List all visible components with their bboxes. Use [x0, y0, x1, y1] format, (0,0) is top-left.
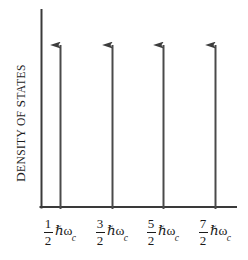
fraction-three-halves: 3 2 — [96, 217, 105, 247]
omega-symbol: ω — [116, 223, 125, 238]
hbar-symbol: ℏ — [107, 223, 116, 238]
fraction-one-half: 1 2 — [44, 217, 53, 247]
hbar-symbol: ℏ — [55, 223, 64, 238]
hbar-symbol: ℏ — [210, 223, 219, 238]
x-tick-label-group: 1 2 ℏωc 3 2 ℏωc 5 2 ℏωc 7 — [0, 210, 248, 258]
y-axis-title-segment-1: ENSITY OF — [15, 107, 27, 171]
unit-hbar-omega-c: ℏωc — [210, 222, 231, 241]
y-axis-title-segment-2: TATES — [15, 64, 27, 99]
subscript-c: c — [124, 233, 128, 243]
density-of-states-figure: DENSITY OF STATES 1 2 ℏωc 3 2 ℏωc 5 2 — [0, 0, 248, 260]
omega-symbol: ω — [219, 223, 228, 238]
x-tick-label-1: 1 2 ℏωc — [31, 210, 89, 254]
fraction-numerator: 7 — [199, 217, 208, 231]
fraction-numerator: 3 — [96, 217, 105, 231]
subscript-c: c — [227, 233, 231, 243]
omega-symbol: ω — [167, 223, 176, 238]
unit-hbar-omega-c: ℏωc — [158, 222, 179, 241]
unit-hbar-omega-c: ℏωc — [55, 222, 76, 241]
y-axis-title-initial-d: D — [13, 172, 28, 182]
fraction-seven-halves: 7 2 — [199, 217, 208, 247]
x-tick-label-3: 5 2 ℏωc — [134, 210, 192, 254]
x-tick-label-2: 3 2 ℏωc — [83, 210, 141, 254]
subscript-c: c — [175, 233, 179, 243]
x-tick-label-4: 7 2 ℏωc — [186, 210, 244, 254]
fraction-denominator: 2 — [147, 233, 156, 247]
fraction-denominator: 2 — [44, 233, 53, 247]
fraction-numerator: 5 — [147, 217, 156, 231]
delta-spike-arrows — [61, 45, 216, 209]
subscript-c: c — [72, 233, 76, 243]
fraction-numerator: 1 — [44, 217, 53, 231]
fraction-five-halves: 5 2 — [147, 217, 156, 247]
fraction-denominator: 2 — [96, 233, 105, 247]
fraction-denominator: 2 — [199, 233, 208, 247]
omega-symbol: ω — [64, 223, 73, 238]
unit-hbar-omega-c: ℏωc — [107, 222, 128, 241]
y-axis-title: DENSITY OF STATES — [12, 32, 30, 182]
hbar-symbol: ℏ — [158, 223, 167, 238]
y-axis-title-initial-s: S — [13, 100, 28, 108]
